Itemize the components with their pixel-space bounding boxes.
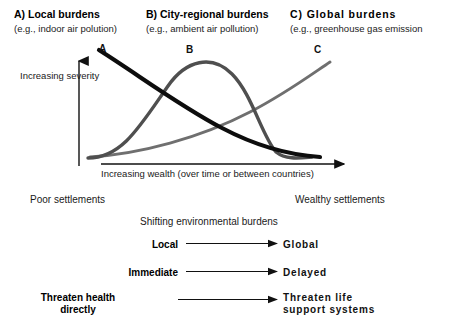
transition-left-local: Local xyxy=(0,239,178,251)
transition-row-local-global: Local Global xyxy=(0,236,453,264)
legend-title-c: C) Global burdens xyxy=(290,8,423,21)
legend-title-b: B) City-regional burdens xyxy=(146,8,269,21)
right-arrow-icon xyxy=(186,267,278,276)
x-axis-label: Increasing wealth (over time or between … xyxy=(101,168,314,180)
right-arrow-icon xyxy=(186,239,278,248)
curve-label-c: C xyxy=(314,44,321,55)
transition-left-immediate: Immediate xyxy=(0,267,178,279)
transition-right-global: Global xyxy=(283,239,319,251)
curve-label-a: A xyxy=(99,43,106,54)
curve-b-city-regional xyxy=(88,62,312,158)
legend-title-a: A) Local burdens xyxy=(14,8,117,21)
legend-item-city-regional-burdens: B) City-regional burdens (e.g., ambient … xyxy=(146,8,269,35)
curves-svg xyxy=(0,40,453,175)
transition-right-threaten-life: Threaten life support systems xyxy=(283,292,375,315)
right-arrow-icon xyxy=(178,295,278,304)
burden-curves-plot: A B C xyxy=(0,40,453,175)
transition-right-delayed: Delayed xyxy=(283,267,327,279)
legend-item-local-burdens: A) Local burdens (e.g., indoor air polut… xyxy=(14,8,117,35)
transition-left-threaten-health: Threaten health directly xyxy=(0,292,178,315)
shifting-burdens-rows: Local Global Immediate Delayed Threaten … xyxy=(0,236,453,320)
environmental-burdens-figure: A) Local burdens (e.g., indoor air polut… xyxy=(0,0,453,323)
shifting-burdens-title: Shifting environmental burdens xyxy=(140,216,278,227)
transition-row-immediate-delayed: Immediate Delayed xyxy=(0,264,453,292)
poor-settlements-label: Poor settlements xyxy=(30,194,105,205)
legend-item-global-burdens: C) Global burdens (e.g., greenhouse gas … xyxy=(290,8,423,35)
y-axis-label: Increasing severity xyxy=(20,70,76,82)
wealthy-settlements-label: Wealthy settlements xyxy=(295,194,385,205)
legend-subtitle-c: (e.g., greenhouse gas emission xyxy=(290,22,423,35)
transition-row-threaten: Threaten health directly Threaten life s… xyxy=(0,292,453,320)
curve-a-local xyxy=(99,50,320,157)
legend-subtitle-b: (e.g., ambient air pollution) xyxy=(146,22,269,35)
legend-subtitle-a: (e.g., indoor air polution) xyxy=(14,22,117,35)
curve-label-b: B xyxy=(186,44,193,55)
